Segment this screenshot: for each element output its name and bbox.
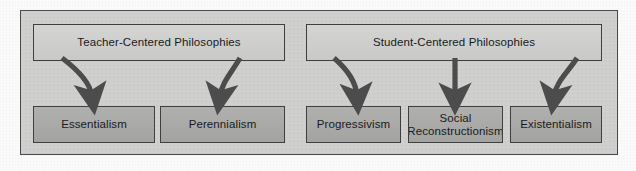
- node-label: Student-Centered Philosophies: [370, 36, 538, 49]
- node-teacher-centered-philosophies[interactable]: Teacher-Centered Philosophies: [33, 24, 285, 61]
- diagram-canvas: Teacher-Centered Philosophies Essentiali…: [0, 0, 636, 171]
- node-perennialism[interactable]: Perennialism: [160, 106, 285, 143]
- node-existentialism[interactable]: Existentialism: [510, 106, 602, 143]
- node-label: Progressivism: [314, 118, 394, 131]
- node-label: Essentialism: [58, 118, 130, 131]
- node-label: Existentialism: [517, 118, 595, 131]
- node-label: Teacher-Centered Philosophies: [74, 36, 243, 49]
- node-progressivism[interactable]: Progressivism: [306, 106, 401, 143]
- node-label: Perennialism: [186, 118, 260, 131]
- node-essentialism[interactable]: Essentialism: [33, 106, 155, 143]
- node-label: Social Reconstructionism: [408, 112, 503, 138]
- node-student-centered-philosophies[interactable]: Student-Centered Philosophies: [306, 24, 602, 61]
- node-social-reconstructionism[interactable]: Social Reconstructionism: [408, 106, 503, 143]
